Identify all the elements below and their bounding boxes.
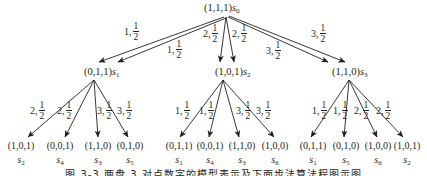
prob-num: 1 xyxy=(265,101,272,111)
prob-num: 1 xyxy=(212,24,219,34)
edge-action: 2 xyxy=(232,29,237,39)
edge-prob: 12 xyxy=(184,101,191,121)
edge-label-s0-s3-b: 3,12 xyxy=(311,24,326,44)
edge-action: 3 xyxy=(236,106,241,116)
node-state: (0,1,1) xyxy=(84,66,112,77)
prob-den: 2 xyxy=(213,34,218,44)
edge-action: 2 xyxy=(57,106,62,116)
leaf-state: (0,1,0) xyxy=(110,141,150,151)
figure-caption: 图 3-3 两盘 3 对点数字的模型表示及下面步法算法程图示图 xyxy=(0,166,427,176)
prob-num: 1 xyxy=(342,101,349,111)
edge-action: 1 xyxy=(167,45,172,55)
leaf-s1-2: (0,0,1) s4 xyxy=(40,141,80,167)
prob-num: 1 xyxy=(245,101,252,111)
node-state: (1,1,0) xyxy=(332,66,360,77)
prob-num: 1 xyxy=(39,101,46,111)
node-state: (1,1,1) xyxy=(204,2,232,13)
edge-label-s1-3: 3,12 xyxy=(97,101,112,121)
prob-den: 2 xyxy=(364,111,369,121)
node-s1: (0,1,1)s1 xyxy=(84,67,120,79)
leaf-state: (1,0,0) xyxy=(255,141,295,151)
edge-label-s0-s1-a: 1,12 xyxy=(124,22,139,42)
edge-prob: 12 xyxy=(133,22,140,42)
prob-den: 2 xyxy=(322,111,327,121)
prob-num: 1 xyxy=(66,101,73,111)
node-s3: (1,1,0)s3 xyxy=(332,67,368,79)
prob-num: 1 xyxy=(363,101,370,111)
prob-num: 1 xyxy=(275,41,282,51)
edge-action: 3 xyxy=(256,106,261,116)
edge-label-s1-4: 3,12 xyxy=(117,101,132,121)
prob-num: 1 xyxy=(320,24,327,34)
edge-prob: 12 xyxy=(320,24,327,44)
leaf-s3-4: (1,0,1) s2 xyxy=(387,141,427,167)
edge-label-s0-s2-b: 2,12 xyxy=(232,24,247,44)
prob-den: 2 xyxy=(386,111,391,121)
edge-label-s3-3: 2,12 xyxy=(354,101,369,121)
node-state: (1,0,1) xyxy=(215,66,243,77)
leaf-s2-4: (1,0,0) s6 xyxy=(255,141,295,167)
edge-prob: 12 xyxy=(241,24,248,44)
edge-label-s0-s3-a: 3,12 xyxy=(266,41,281,61)
mdp-tree-diagram: (1,1,1)s0 1,12 1,12 2,12 2,12 3,12 3,12 … xyxy=(0,0,427,176)
leaf-state: (1,0,1) xyxy=(387,141,427,151)
edge-prob: 12 xyxy=(106,101,113,121)
edge-prob: 12 xyxy=(245,101,252,121)
prob-den: 2 xyxy=(276,51,281,61)
edge-action: 2 xyxy=(30,106,35,116)
prob-num: 1 xyxy=(126,101,133,111)
leaf-state: (0,0,1) xyxy=(40,141,80,151)
edge-label-s1-2: 2,12 xyxy=(57,101,72,121)
prob-den: 2 xyxy=(209,111,214,121)
edge-label-s0-s2-a: 2,12 xyxy=(203,24,218,44)
prob-num: 1 xyxy=(184,101,191,111)
node-index: 3 xyxy=(364,71,368,79)
edge-prob: 12 xyxy=(212,24,219,44)
prob-num: 1 xyxy=(241,24,248,34)
edge-prob: 12 xyxy=(176,40,183,60)
edge-label-s3-1: 1,12 xyxy=(312,101,327,121)
edge-label-s3-2: 1,12 xyxy=(333,101,348,121)
edge-prob: 12 xyxy=(363,101,370,121)
prob-num: 1 xyxy=(133,22,140,32)
edge-label-s2-1: 1,12 xyxy=(175,101,190,121)
edge-label-s2-4: 3,12 xyxy=(256,101,271,121)
prob-num: 1 xyxy=(106,101,113,111)
prob-den: 2 xyxy=(242,34,247,44)
edge-action: 3 xyxy=(97,106,102,116)
prob-den: 2 xyxy=(127,111,132,121)
edge-action: 1 xyxy=(333,106,338,116)
edge-prob: 12 xyxy=(342,101,349,121)
node-s2: (1,0,1)s2 xyxy=(215,67,251,79)
node-index: 2 xyxy=(247,71,251,79)
edge-prob: 12 xyxy=(126,101,133,121)
prob-den: 2 xyxy=(185,111,190,121)
leaf-state: (1,0,1) xyxy=(1,141,41,151)
edge-label-s1-1: 2,12 xyxy=(30,101,45,121)
prob-den: 2 xyxy=(177,50,182,60)
edge-action: 1 xyxy=(175,106,180,116)
prob-den: 2 xyxy=(40,111,45,121)
prob-den: 2 xyxy=(343,111,348,121)
edge-prob: 12 xyxy=(39,101,46,121)
edge-prob: 12 xyxy=(66,101,73,121)
prob-num: 1 xyxy=(208,101,215,111)
edge-action: 2 xyxy=(376,106,381,116)
edge-prob: 12 xyxy=(385,101,392,121)
edge-s0-s2-a xyxy=(220,17,226,62)
edge-action: 2 xyxy=(203,29,208,39)
prob-den: 2 xyxy=(266,111,271,121)
edge-action: 3 xyxy=(117,106,122,116)
edge-action: 3 xyxy=(311,29,316,39)
leaf-s1-4: (0,1,0) s5 xyxy=(110,141,150,167)
edge-action: 1 xyxy=(124,27,129,37)
edge-label-s0-s1-b: 1,12 xyxy=(167,40,182,60)
prob-den: 2 xyxy=(246,111,251,121)
prob-den: 2 xyxy=(134,32,139,42)
node-index: 1 xyxy=(116,71,120,79)
prob-num: 1 xyxy=(176,40,183,50)
prob-den: 2 xyxy=(67,111,72,121)
root-node-s0: (1,1,1)s0 xyxy=(204,3,240,15)
prob-den: 2 xyxy=(321,34,326,44)
edge-prob: 12 xyxy=(275,41,282,61)
